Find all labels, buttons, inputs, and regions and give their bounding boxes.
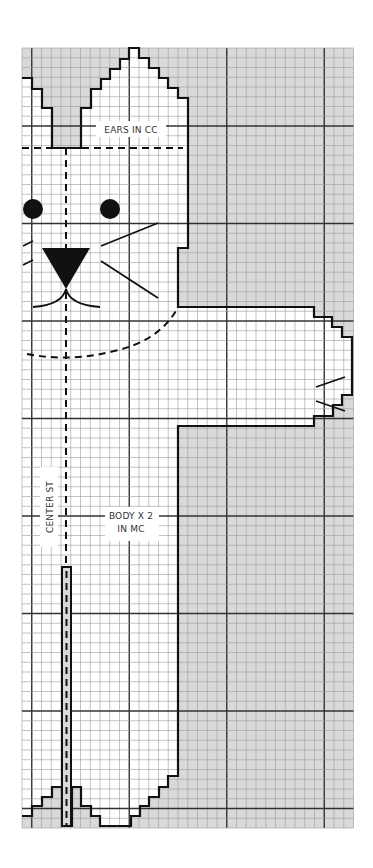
ears-label: EARS IN CC bbox=[104, 125, 158, 135]
body-label-line2: IN MC bbox=[117, 524, 144, 534]
knitting-chart: EARS IN CC BODY X 2 IN MC CENTER ST bbox=[0, 0, 373, 868]
left-eye bbox=[23, 199, 43, 219]
right-eye bbox=[100, 199, 120, 219]
center-st-label: CENTER ST bbox=[45, 481, 55, 533]
body-label-line1: BODY X 2 bbox=[109, 511, 153, 521]
